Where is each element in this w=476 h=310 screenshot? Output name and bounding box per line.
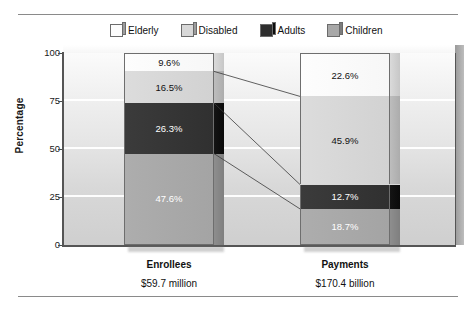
y-tick-0: 0 — [34, 239, 60, 250]
plot-right-face — [455, 45, 464, 245]
plot-area: 9.6% 16.5% 26.3% 47.6% 22.6% — [63, 53, 456, 245]
legend-item-disabled[interactable]: Disabled — [181, 24, 238, 37]
bar-enrollees-segment-children[interactable]: 47.6% — [124, 154, 214, 245]
bar-enrollees-segment-disabled[interactable]: 16.5% — [124, 71, 214, 103]
segment-label: 18.7% — [332, 221, 359, 232]
legend-item-children[interactable]: Children — [327, 24, 382, 37]
y-tick-75: 75 — [34, 95, 60, 106]
y-tick-50: 50 — [34, 143, 60, 154]
segment-label: 45.9% — [332, 135, 359, 146]
bar-enrollees-side-disabled — [214, 71, 224, 103]
bar-payments-side-adults — [390, 185, 400, 209]
bar-payments[interactable]: 22.6% 45.9% 12.7% 18.7% — [300, 53, 390, 245]
category-payments: Payments $170.4 billion — [270, 259, 420, 289]
category-enrollees-name: Enrollees — [94, 259, 244, 270]
legend-label-adults: Adults — [278, 25, 306, 36]
bar-payments-segment-disabled[interactable]: 45.9% — [300, 96, 390, 184]
bar-enrollees-side-elderly — [214, 53, 224, 71]
bar-enrollees-segment-elderly[interactable]: 9.6% — [124, 53, 214, 71]
bar-payments-side-elderly — [390, 53, 400, 96]
legend-swatch-elderly-icon — [110, 24, 123, 37]
segment-label: 26.3% — [156, 123, 183, 134]
legend-label-elderly: Elderly — [128, 25, 159, 36]
y-axis-tick-labels: 100 75 50 25 0 — [32, 0, 60, 310]
bar-enrollees-segment-adults[interactable]: 26.3% — [124, 103, 214, 154]
bar-enrollees-side-adults — [214, 103, 224, 154]
legend-swatch-children-icon — [327, 24, 340, 37]
chart-legend: Elderly Disabled Adults Children — [110, 24, 383, 37]
y-axis-line — [62, 52, 64, 246]
legend-label-disabled: Disabled — [199, 25, 238, 36]
segment-label: 47.6% — [156, 193, 183, 204]
segment-label: 22.6% — [332, 70, 359, 81]
legend-item-elderly[interactable]: Elderly — [110, 24, 159, 37]
y-tick-25: 25 — [34, 191, 60, 202]
category-payments-value: $170.4 billion — [270, 278, 420, 289]
plot-top-face — [63, 45, 455, 53]
legend-item-adults[interactable]: Adults — [260, 24, 306, 37]
bar-enrollees[interactable]: 9.6% 16.5% 26.3% 47.6% — [124, 53, 214, 245]
category-enrollees-value: $59.7 million — [94, 278, 244, 289]
chart-figure: Elderly Disabled Adults Children Percent… — [0, 0, 476, 310]
bar-enrollees-side-children — [214, 154, 224, 245]
legend-swatch-adults-icon — [260, 24, 273, 37]
bar-payments-segment-children[interactable]: 18.7% — [300, 209, 390, 245]
bar-enrollees-shadow — [128, 246, 224, 252]
bar-payments-side-children — [390, 209, 400, 245]
bottom-divider-rule — [18, 296, 458, 297]
top-divider-rule — [18, 14, 458, 15]
segment-label: 12.7% — [332, 191, 359, 202]
category-payments-name: Payments — [270, 259, 420, 270]
legend-label-children: Children — [345, 25, 382, 36]
segment-label: 9.6% — [158, 57, 180, 68]
y-axis-title: Percentage — [14, 81, 25, 171]
bar-payments-shadow — [304, 246, 400, 252]
legend-swatch-disabled-icon — [181, 24, 194, 37]
bar-payments-side-disabled — [390, 96, 400, 184]
bar-payments-segment-elderly[interactable]: 22.6% — [300, 53, 390, 96]
bar-payments-segment-adults[interactable]: 12.7% — [300, 185, 390, 209]
segment-label: 16.5% — [156, 82, 183, 93]
y-tick-100: 100 — [34, 47, 60, 58]
category-enrollees: Enrollees $59.7 million — [94, 259, 244, 289]
